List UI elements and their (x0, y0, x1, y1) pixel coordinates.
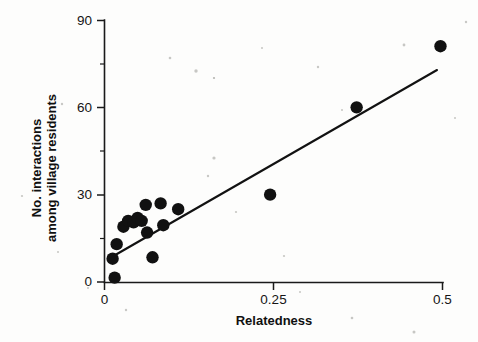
x-tick-label-05: 0.5 (433, 292, 452, 307)
data-point (146, 251, 158, 263)
x-axis-ticks (105, 283, 443, 291)
data-point (106, 253, 118, 265)
y-tick-label-30: 30 (77, 187, 92, 202)
data-point (140, 199, 152, 211)
x-tick-label-025: 0.25 (260, 292, 286, 307)
y-tick-label-90: 90 (77, 13, 92, 28)
plot-canvas: 90 60 30 0 0 0.25 0.5 Relatedness No. in… (0, 0, 478, 342)
data-point (154, 197, 166, 209)
y-tick-label-60: 60 (77, 100, 92, 115)
data-point (264, 188, 276, 200)
y-axis-title-line2: among village residents (44, 94, 59, 242)
x-tick-label-0: 0 (101, 292, 109, 307)
x-axis-title: Relatedness (236, 313, 313, 328)
data-point (434, 40, 446, 52)
trend-line (110, 70, 437, 258)
data-point (350, 101, 362, 113)
data-point (172, 203, 184, 215)
data-point (157, 219, 169, 231)
data-point (108, 271, 120, 283)
scatter-plot-figure: 90 60 30 0 0 0.25 0.5 Relatedness No. in… (0, 0, 478, 342)
data-point (135, 215, 147, 227)
data-point (141, 226, 153, 238)
y-axis-title-line1: No. interactions (29, 119, 44, 217)
y-tick-label-0: 0 (84, 274, 92, 289)
data-point (110, 238, 122, 250)
